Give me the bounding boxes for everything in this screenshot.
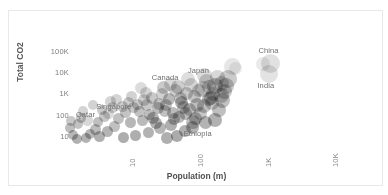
- x-tick-label: 10K: [331, 153, 340, 167]
- point-label: Ethiopia: [184, 129, 212, 138]
- x-axis-title: Population (m): [9, 171, 383, 181]
- y-axis-ticks: 100K10K1K10010: [29, 11, 69, 186]
- bubble-point[interactable]: [130, 130, 141, 141]
- point-label: India: [257, 81, 274, 90]
- point-label: Japan: [188, 66, 209, 75]
- y-axis-title: Total CO2: [15, 32, 25, 92]
- x-tick-label: 1K: [264, 157, 273, 167]
- bubble-point[interactable]: [93, 117, 103, 127]
- y-tick-label: 10K: [55, 68, 69, 77]
- point-label: Canada: [152, 73, 179, 82]
- bubble-point[interactable]: [102, 126, 113, 137]
- point-label: Qatar: [76, 110, 95, 119]
- point-label: Singapore: [96, 102, 131, 111]
- scatter-chart-card: QatarSingaporeCanadaJapanChinaIndiaEthio…: [8, 10, 383, 186]
- point-label: China: [258, 46, 278, 55]
- bubble-point[interactable]: [125, 117, 136, 128]
- bubble-point[interactable]: [143, 127, 154, 138]
- bubble-point[interactable]: [218, 78, 234, 94]
- x-tick-label: 10: [128, 158, 137, 167]
- bubble-point[interactable]: [174, 92, 187, 105]
- bubble-point[interactable]: [208, 113, 222, 127]
- bubble-point[interactable]: [118, 132, 129, 143]
- y-tick-label: 100K: [51, 47, 69, 56]
- bubble-point[interactable]: [72, 134, 82, 144]
- bubble-point[interactable]: [215, 93, 230, 108]
- bubble-point[interactable]: [229, 62, 242, 75]
- bubble-point[interactable]: [161, 132, 173, 144]
- y-tick-label: 100: [56, 111, 69, 120]
- y-tick-label: 10: [60, 132, 69, 141]
- bubble-point[interactable]: [81, 133, 91, 143]
- y-tick-label: 1K: [59, 89, 69, 98]
- x-tick-label: 100: [196, 154, 205, 167]
